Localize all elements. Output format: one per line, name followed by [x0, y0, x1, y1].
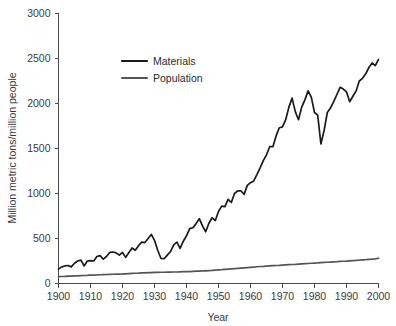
chart-legend: Materials Population: [122, 55, 203, 84]
x-axis-title: Year: [207, 311, 229, 323]
y-tick-label: 1000: [27, 187, 51, 199]
y-tick-label: 500: [33, 232, 51, 244]
y-axis-tick-labels: 050010001500200025003000: [27, 7, 51, 289]
x-tick-label: 1960: [239, 290, 263, 302]
x-tick-label: 1900: [47, 290, 71, 302]
y-tick-label: 0: [45, 277, 51, 289]
x-tick-label: 1940: [175, 290, 199, 302]
y-axis-title: Million metric tons/million people: [6, 72, 18, 223]
y-tick-label: 2500: [27, 52, 51, 64]
chart-figure: 050010001500200025003000 190019101920193…: [0, 0, 396, 326]
x-tick-label: 2000: [367, 290, 391, 302]
legend-label-population: Population: [153, 72, 203, 84]
x-tick-label: 1930: [143, 290, 167, 302]
y-tick-label: 1500: [27, 142, 51, 154]
x-tick-label: 1990: [335, 290, 359, 302]
line-chart-svg: 050010001500200025003000 190019101920193…: [0, 0, 396, 326]
legend-label-materials: Materials: [153, 55, 196, 67]
series-line-population: [59, 258, 379, 276]
x-tick-label: 1950: [207, 290, 231, 302]
x-tick-label: 1970: [271, 290, 295, 302]
y-axis-tick-marks: [55, 14, 59, 284]
x-tick-label: 1980: [303, 290, 327, 302]
y-tick-label: 2000: [27, 97, 51, 109]
x-axis-tick-marks: [59, 284, 379, 288]
axis-spine: [59, 14, 379, 284]
x-axis-tick-labels: 1900191019201930194019501960197019801990…: [47, 290, 391, 302]
y-tick-label: 3000: [27, 7, 51, 19]
data-series-group: [59, 59, 379, 276]
x-tick-label: 1910: [79, 290, 103, 302]
x-tick-label: 1920: [111, 290, 135, 302]
series-line-materials: [59, 59, 379, 269]
